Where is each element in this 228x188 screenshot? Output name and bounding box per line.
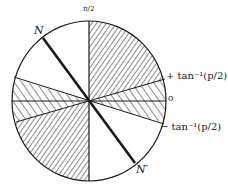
label-zero: o bbox=[168, 94, 173, 103]
label-plus-angle: + tan⁻¹(p/2) bbox=[166, 71, 227, 81]
label-N: N bbox=[34, 25, 44, 36]
label-N-prime: N′ bbox=[136, 164, 148, 175]
label-pi-over-2: π/2 bbox=[83, 6, 94, 13]
label-minus-angle: − tan⁻¹(p/2) bbox=[160, 122, 221, 132]
